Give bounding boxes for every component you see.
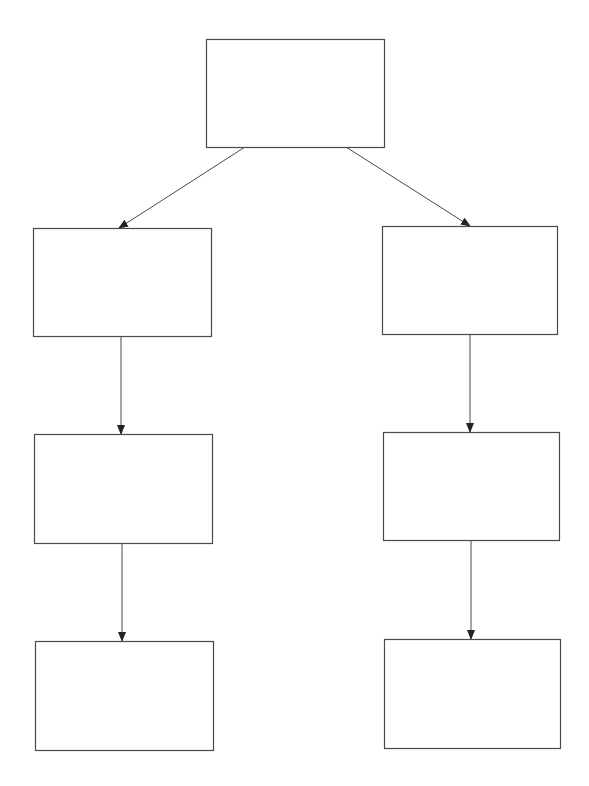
tree-diagram (0, 0, 589, 786)
arrow-root-to-left-1 (119, 147, 245, 228)
connector-arrows (119, 147, 471, 641)
box-right-1 (383, 227, 558, 335)
box-left-3 (36, 642, 214, 751)
diagram-boxes (34, 40, 561, 751)
arrow-root-to-right-1 (346, 147, 470, 226)
box-left-1 (34, 229, 212, 337)
box-left-2 (35, 435, 213, 544)
box-root (207, 40, 385, 148)
box-right-3 (385, 640, 561, 749)
box-right-2 (384, 433, 560, 541)
